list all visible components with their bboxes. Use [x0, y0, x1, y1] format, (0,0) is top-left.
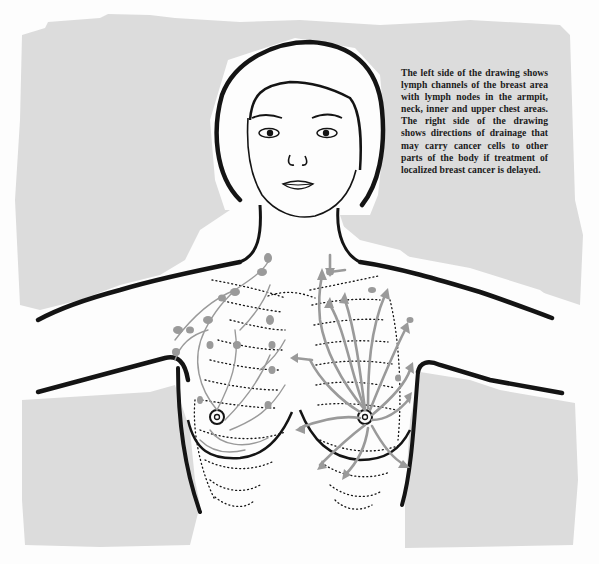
background-panel-lower-right	[405, 372, 578, 548]
background-panel-lower-left	[22, 385, 200, 547]
illustration-canvas: The left side of the drawing shows lymph…	[0, 0, 599, 564]
caption-text: The left side of the drawing shows lymph…	[401, 67, 548, 176]
